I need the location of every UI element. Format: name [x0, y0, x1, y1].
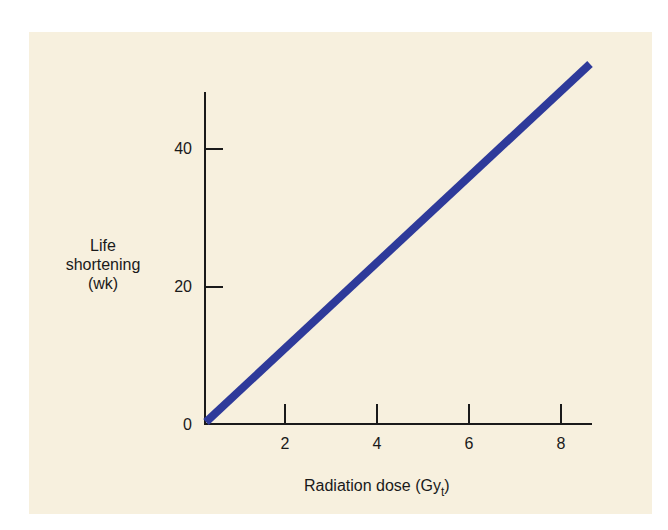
x-tick-label-4: 4	[362, 434, 392, 453]
y-tick-label-40: 40	[152, 139, 192, 158]
y-axis-label-line-1: Life	[48, 236, 158, 255]
y-axis-label-line-3: (wk)	[48, 274, 158, 293]
y-tick-label-0: 0	[152, 415, 192, 434]
data-line-life-shortening	[206, 64, 590, 422]
y-axis-label-line-2: shortening	[48, 255, 158, 274]
x-tick-label-2: 2	[270, 434, 300, 453]
x-tick-label-6: 6	[454, 434, 484, 453]
x-tick-label-8: 8	[546, 434, 576, 453]
y-axis-label: Life shortening (wk)	[48, 236, 158, 293]
x-axis-label-close: )	[444, 477, 449, 494]
x-axis-label: Radiation dose (Gyt)	[304, 476, 450, 495]
y-tick-label-20: 20	[152, 277, 192, 296]
x-axis-label-main: Radiation dose (Gy	[304, 477, 441, 494]
